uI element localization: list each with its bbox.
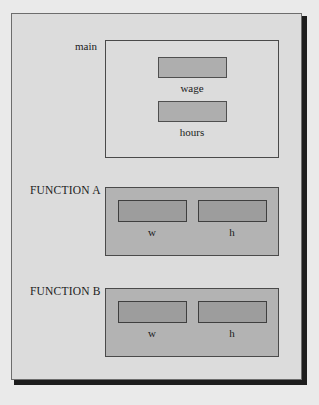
group-label-main: main [75,41,97,52]
variable-cell-hours [158,101,227,122]
group-label-function-a: FUNCTION A [30,185,101,197]
variable-cell-wage [158,57,227,78]
variable-cell-a-h [198,200,267,222]
group-box-main: wage hours [105,40,279,158]
diagram-outer-frame: main wage hours FUNCTION A w h FUNCTION … [11,13,302,380]
variable-label-a-h: h [182,227,282,238]
variable-label-b-h: h [182,328,282,339]
variable-cell-a-w [118,200,187,222]
group-label-function-b: FUNCTION B [30,286,101,298]
group-box-function-b: w h [105,288,279,357]
variable-label-wage: wage [142,83,242,94]
variable-label-hours: hours [142,127,242,138]
diagram-canvas: main wage hours FUNCTION A w h FUNCTION … [0,0,319,405]
group-box-function-a: w h [105,187,279,256]
variable-cell-b-w [118,301,187,323]
variable-cell-b-h [198,301,267,323]
